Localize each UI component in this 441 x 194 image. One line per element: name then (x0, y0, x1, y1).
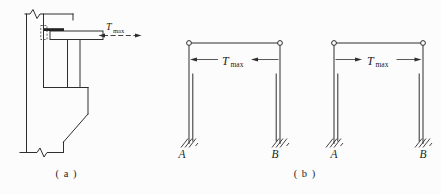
panel-a-caption: ( a ) (56, 168, 78, 180)
force-arrowhead-left (99, 34, 106, 38)
hinge-circle-right (421, 41, 426, 46)
panel-b-frame-right: T max A B (326, 41, 432, 160)
corbel-sloped-underside (64, 114, 89, 142)
force-subscript-label: max (113, 27, 125, 34)
support-label-a: A (177, 148, 186, 160)
force-subscript-label: max (376, 60, 389, 69)
support-label-b: B (271, 148, 278, 160)
panel-b-caption: ( b ) (294, 168, 317, 180)
force-arrowhead-left (355, 57, 362, 61)
force-arrowhead-right (251, 57, 258, 61)
support-label-a: A (329, 148, 338, 160)
force-arrowhead-left (190, 57, 197, 61)
force-arrowhead-right (415, 57, 422, 61)
force-arrowhead-right (135, 34, 142, 38)
girder-top-flange (50, 31, 103, 40)
panel-b-frame-left: T max A B (177, 41, 289, 160)
hinge-circle-left (332, 41, 337, 46)
force-symbol-label: T (222, 54, 230, 68)
hinge-circle-right (278, 41, 283, 46)
structural-diagram-svg: T max ( a ) T max A B (0, 0, 441, 194)
hinge-circle-left (187, 41, 192, 46)
panel-a-corbel-detail: T max ( a ) (20, 10, 142, 181)
force-symbol-label: T (106, 21, 113, 32)
break-line-top (25, 10, 73, 19)
force-symbol-label: T (367, 54, 375, 68)
support-label-b: B (419, 148, 426, 160)
force-subscript-label: max (231, 60, 244, 69)
figure-canvas: T max ( a ) T max A B (0, 0, 441, 194)
